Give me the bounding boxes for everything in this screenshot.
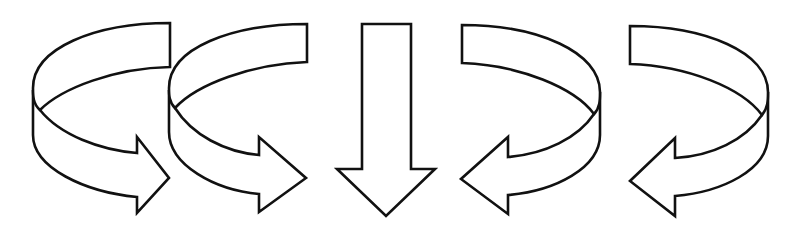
curved-arrow-right-icon xyxy=(33,23,170,213)
curved-arrow-left-icon xyxy=(630,26,768,216)
arrow-down-icon xyxy=(337,24,435,216)
arrow-diagram xyxy=(0,0,795,237)
curved-arrow-right-icon xyxy=(169,24,307,212)
curved-arrow-left-icon xyxy=(461,25,600,214)
